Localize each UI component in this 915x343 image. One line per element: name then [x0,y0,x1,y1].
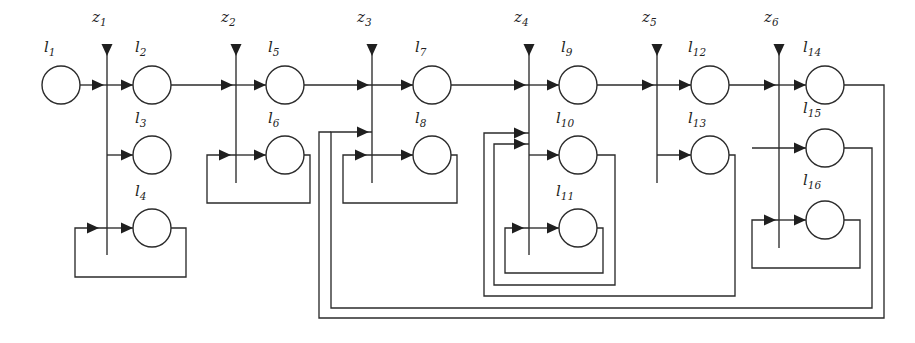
node-l9[interactable] [559,66,597,104]
node-label-l3: l3 [135,109,147,129]
node-label-l14: l14 [803,38,821,58]
edge-z4-to-l10 [529,150,559,161]
node-l11[interactable] [559,209,597,247]
edge-z1-to-l3 [107,150,133,161]
node-l16[interactable] [806,201,844,239]
node-label-l12: l12 [688,38,706,58]
node-label-l6: l6 [268,109,280,129]
node-label-l8: l8 [415,109,427,129]
flow-network-svg: l1 l2 l3 l4 l5 l6 l7 l8 [0,0,915,343]
node-l3[interactable] [133,136,171,174]
node-label-l7: l7 [415,38,427,58]
z-input-z4[interactable] [524,44,535,255]
z-input-z5[interactable] [652,44,663,183]
z-input-z2[interactable] [231,44,242,183]
node-l2[interactable] [133,66,171,104]
node-label-l10: l10 [556,109,574,129]
edge-l5-to-z3 [304,80,372,91]
z-label-z4: z4 [513,8,529,28]
node-l8[interactable] [413,136,451,174]
z-label-z1: z1 [91,8,107,28]
edge-z6-to-l16 [779,215,806,226]
node-l1[interactable] [42,66,80,104]
node-label-l9: l9 [561,38,573,58]
z-input-z1[interactable] [102,44,113,255]
z-label-z5: z5 [641,8,657,28]
feedback-loops [75,85,884,318]
edge-z5-to-l13 [657,150,691,161]
node-l15[interactable] [806,129,844,167]
node-label-l4: l4 [135,182,147,202]
nodes [42,66,844,247]
edge-z4-to-l11 [529,223,559,234]
edge-l2-to-z2 [171,80,236,91]
flow-diagram-canvas: l1 l2 l3 l4 l5 l6 l7 l8 [0,0,915,343]
z-input-labels: z1 z2 z3 z4 z5 z6 [91,8,779,28]
edge-z3-to-l8 [372,150,413,161]
z-input-z6[interactable] [774,44,785,248]
node-label-l5: l5 [268,38,280,58]
node-label-l13: l13 [688,109,706,129]
edge-z5-to-l12 [657,80,691,91]
node-l7[interactable] [413,66,451,104]
feedback-loop-l15 [331,127,872,309]
node-label-l1: l1 [44,38,56,58]
edge-z6-to-l14 [779,80,806,91]
z-label-z2: z2 [220,8,236,28]
z-label-z6: z6 [763,8,779,28]
node-l6[interactable] [266,136,304,174]
node-l13[interactable] [691,136,729,174]
node-labels: l1 l2 l3 l4 l5 l6 l7 l8 [44,38,821,202]
edge-z3-to-l7 [372,80,413,91]
node-label-l11: l11 [556,182,574,202]
edge-z2-to-l5 [236,80,266,91]
edge-z2-to-l6 [236,150,266,161]
node-label-l16: l16 [803,171,821,191]
z-input-z3[interactable] [367,44,378,183]
node-l12[interactable] [691,66,729,104]
node-l14[interactable] [806,66,844,104]
node-l4[interactable] [133,209,171,247]
edge-z4-to-l9 [529,80,559,91]
node-l5[interactable] [266,66,304,104]
edge-z1-to-l2 [107,80,133,91]
edge-l9-to-z5 [597,80,657,91]
feedback-loop-l14 [319,85,884,318]
node-label-l2: l2 [135,38,147,58]
node-l10[interactable] [559,136,597,174]
z-label-z3: z3 [356,8,372,28]
edge-l12-to-z6 [729,80,779,91]
edge-l1-to-z1 [80,80,107,91]
edge-l7-to-z4 [451,80,529,91]
edge-z1-to-l4 [107,223,133,234]
